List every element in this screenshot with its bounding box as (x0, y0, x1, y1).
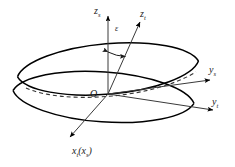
labels-group: zs zt ε ys yt xt(xs) O (71, 5, 218, 158)
figure-canvas: zs zt ε ys yt xt(xs) O (0, 0, 235, 167)
angle-arc (108, 52, 126, 57)
axis-label-z-t: zt (139, 8, 146, 21)
axis-x-t-x-s (70, 94, 108, 137)
axis-label-y-t: yt (211, 96, 218, 109)
coordinate-system-figure: zs zt ε ys yt xt(xs) O (0, 0, 235, 167)
origin-label: O (90, 88, 97, 99)
axis-label-x-t-x-s: xt(xs) (71, 145, 93, 158)
axis-z-t (108, 22, 140, 94)
axis-label-y-s: ys (208, 64, 216, 77)
angle-label-epsilon: ε (115, 24, 119, 33)
axis-label-z-s: zs (93, 5, 101, 18)
angle-epsilon-marker (108, 52, 126, 57)
axis-y-t (108, 94, 213, 110)
